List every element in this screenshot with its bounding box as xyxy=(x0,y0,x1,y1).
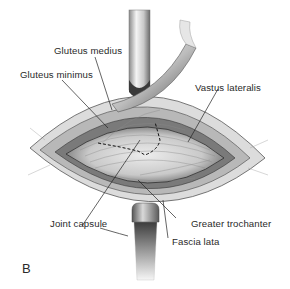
panel-letter: B xyxy=(22,262,31,275)
label-fascia-lata: Fascia lata xyxy=(172,237,220,247)
leader-fascia-lata xyxy=(163,200,168,238)
surgical-illustration: Gluteus medius Gluteus minimus Vastus la… xyxy=(0,0,290,289)
top-retractor xyxy=(129,10,150,98)
label-vastus-lateralis: Vastus lateralis xyxy=(195,83,261,93)
leader-gluteus-medius xyxy=(95,57,112,110)
capsule-underline xyxy=(100,228,128,236)
hip-exposure-drawing xyxy=(0,0,290,289)
label-gluteus-medius: Gluteus medius xyxy=(54,46,122,56)
skin-incision xyxy=(28,96,268,201)
label-greater-trochanter: Greater trochanter xyxy=(191,219,271,229)
label-joint-capsule: Joint capsule xyxy=(50,219,107,229)
label-gluteus-minimus: Gluteus minimus xyxy=(20,70,93,80)
bottom-retractor xyxy=(132,203,159,280)
